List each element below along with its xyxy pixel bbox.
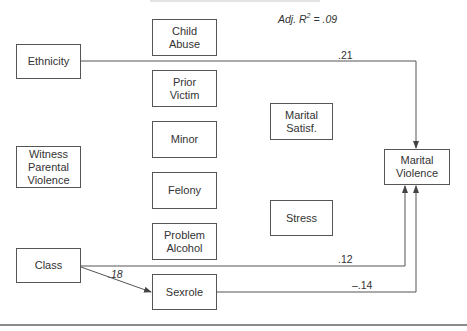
bottom-rule [0, 324, 467, 326]
node-marital-violence: Marital Violence [384, 149, 450, 185]
path-class-to-marital-violence [81, 186, 405, 266]
node-problem-alcohol: Problem Alcohol [152, 223, 217, 260]
coefficient-sexrole: –.14 [352, 279, 372, 291]
node-witness-parental-violence: Witness Parental Violence [16, 146, 81, 188]
coefficient-class-violence: .12 [338, 253, 353, 265]
coefficient-class-sexrole: .18 [108, 268, 123, 280]
path-ethnicity-to-marital-violence [81, 61, 416, 148]
node-class: Class [16, 248, 81, 283]
node-sexrole: Sexrole [152, 274, 217, 310]
node-felony: Felony [152, 172, 217, 209]
node-marital-satisf: Marital Satisf. [270, 103, 333, 140]
node-prior-victim: Prior Victim [152, 70, 217, 107]
node-child-abuse: Child Abuse [152, 19, 217, 56]
coefficient-ethnicity: .21 [338, 49, 353, 61]
node-ethnicity: Ethnicity [16, 44, 81, 79]
node-stress: Stress [270, 200, 333, 236]
node-minor: Minor [152, 121, 217, 158]
